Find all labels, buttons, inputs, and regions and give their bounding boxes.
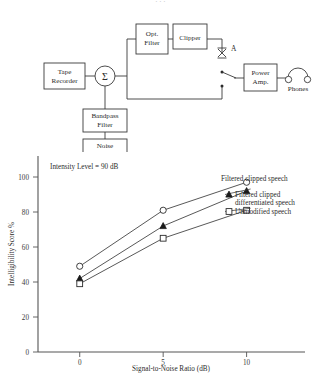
x-tick-label: 0 <box>78 359 82 367</box>
summing-junction: Σ <box>95 66 115 86</box>
data-point-open-circle <box>160 207 166 213</box>
y-tick-label: 100 <box>18 174 29 182</box>
test-point-a-label: A <box>231 44 237 53</box>
sigma-icon: Σ <box>102 71 108 82</box>
block-power-amp-line-1: Power <box>251 69 270 77</box>
legend-item-0: Filtered clipped speech <box>221 175 288 183</box>
y-tick-label: 40 <box>22 279 30 287</box>
block-opt-filter-line-1: Opt. <box>146 30 159 38</box>
legend-label: Filtered clipped speech <box>221 175 288 183</box>
x-axis-title: Signal-to-Noise Ratio (dB) <box>132 365 210 373</box>
data-point-open-square <box>160 235 166 241</box>
series-open-square <box>77 207 250 286</box>
data-point-open-square <box>77 281 83 287</box>
block-tape-recorder-line-2: Recorder <box>52 77 79 85</box>
legend-label: Filtered clipped <box>235 191 281 199</box>
legend-label: Unmodified speech <box>235 208 291 216</box>
data-point-open-square <box>226 209 232 215</box>
legend-item-1: Filtered clippeddifferentiated speech <box>225 189 295 207</box>
series-filled-triangle <box>77 188 250 282</box>
block-opt-filter-line-2: Filter <box>144 39 160 47</box>
block-opt-filter: Opt. Filter <box>136 24 168 54</box>
y-axis-ticks: 020406080100 <box>18 174 38 357</box>
block-clipper: Clipper <box>173 24 207 49</box>
block-bandpass-filter-line-1: Bandpass <box>91 112 118 120</box>
block-power-amp: Power Amp. <box>244 64 277 91</box>
block-tape-recorder-line-1: Tape <box>58 68 72 76</box>
y-tick-label: 60 <box>22 244 30 252</box>
data-point-filled-triangle <box>77 275 83 281</box>
y-tick-label: 0 <box>25 349 29 357</box>
chart-legend: Filtered clipped speechFiltered clippedd… <box>221 175 295 216</box>
block-noise-generator-line-1: Noise <box>97 142 114 150</box>
legend-label: differentiated speech <box>235 199 295 207</box>
data-point-open-circle <box>77 263 83 269</box>
block-power-amp-line-2: Amp. <box>253 78 269 86</box>
y-tick-label: 80 <box>22 209 30 217</box>
figure-page: . . . <box>0 0 321 376</box>
chart-annotation: Intensity Level = 90 dB <box>50 163 119 171</box>
legend-item-2: Unmodified speech <box>225 208 291 216</box>
intelligibility-chart: 020406080100 0510 Signal-to-Noise Ratio … <box>0 152 321 376</box>
chart-series-layer <box>77 179 250 287</box>
block-noise-generator: Noise <box>83 139 127 152</box>
phones-label: Phones <box>288 85 309 93</box>
block-tape-recorder: Tape Recorder <box>44 63 85 89</box>
y-tick-label: 20 <box>22 314 30 322</box>
data-point-filled-triangle <box>160 223 166 229</box>
y-axis-title: Intelligibility Score % <box>8 222 16 286</box>
block-diagram: A Tape Recorder Σ Opt. Filter Clipp <box>0 6 321 152</box>
block-clipper-label: Clipper <box>179 34 201 42</box>
x-tick-label: 10 <box>243 359 251 367</box>
chart-axes <box>38 156 305 352</box>
headphones-icon <box>285 68 310 83</box>
block-bandpass-filter-line-2: Filter <box>97 121 113 129</box>
block-bandpass-filter: Bandpass Filter <box>83 109 127 132</box>
